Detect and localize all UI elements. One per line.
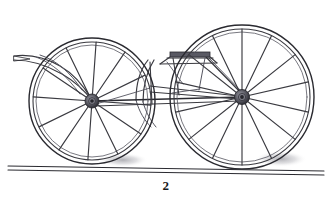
cart-engraving-illustration [0,0,332,203]
seat-apron-left [160,57,170,64]
right-wheel-hub-core [240,95,244,99]
left-wheel-hub-core [90,99,94,103]
seat-strut [167,62,183,84]
ground-line [8,166,324,175]
lower-rail [96,101,240,106]
figure-caption: 2 [0,178,332,194]
figure-container: 2 [0,0,332,203]
ground-shadows [98,151,307,167]
reach-upper [150,86,238,96]
right-wheel [170,25,314,169]
